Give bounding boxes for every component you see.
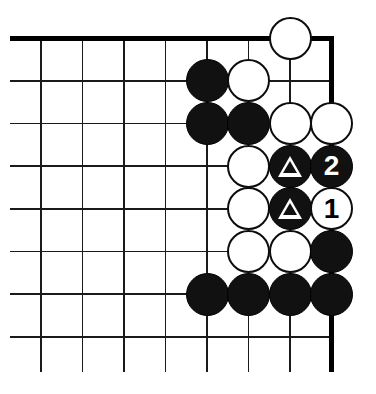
- stone-black-h3[interactable]: [310, 230, 353, 273]
- stone-black-g4-triangle[interactable]: [269, 187, 312, 230]
- stone-black-e2[interactable]: [186, 273, 229, 316]
- stone-black-e6[interactable]: [186, 102, 229, 145]
- stone-white-g8[interactable]: [269, 17, 312, 60]
- stone-white-h6[interactable]: [310, 102, 353, 145]
- go-diagram: 21: [0, 0, 376, 394]
- triangle-mark-icon: [278, 156, 302, 177]
- stone-white-f3[interactable]: [227, 230, 270, 273]
- stone-white-g3[interactable]: [269, 230, 312, 273]
- stone-white-g6[interactable]: [269, 102, 312, 145]
- stone-white-f5[interactable]: [227, 145, 270, 188]
- stone-black-f2[interactable]: [227, 273, 270, 316]
- stone-white-f4[interactable]: [227, 187, 270, 230]
- stone-white-f7[interactable]: [227, 59, 270, 102]
- stone-black-g2[interactable]: [269, 273, 312, 316]
- triangle-mark-icon: [278, 198, 302, 219]
- stone-black-e7[interactable]: [186, 59, 229, 102]
- stone-move-number: 2: [324, 152, 340, 180]
- stone-black-h2[interactable]: [310, 273, 353, 316]
- stone-black-h5-move-2[interactable]: 2: [310, 145, 353, 188]
- stone-black-f6[interactable]: [227, 102, 270, 145]
- stone-move-number: 1: [324, 195, 340, 223]
- stone-white-h4-move-1[interactable]: 1: [310, 187, 353, 230]
- stone-black-g5-triangle[interactable]: [269, 145, 312, 188]
